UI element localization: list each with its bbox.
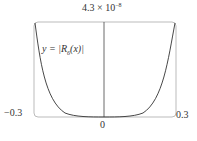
plot-area bbox=[0, 0, 197, 141]
curve-line bbox=[35, 23, 175, 117]
y-max-label: 4.3 × 10−8 bbox=[82, 2, 122, 13]
curve-label: y = |R6(x)| bbox=[42, 43, 84, 56]
x-max-label: 0.3 bbox=[176, 109, 189, 120]
x-zero-label: 0 bbox=[100, 119, 105, 130]
remainder-chart: 4.3 × 10−8 y = |R6(x)| −0.3 0.3 0 bbox=[0, 0, 197, 141]
x-min-label: −0.3 bbox=[4, 107, 22, 118]
